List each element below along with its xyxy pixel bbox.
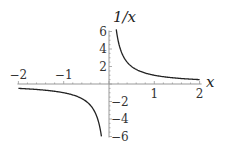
y-tick-label: −4 [111, 112, 129, 126]
curve-branch [116, 29, 199, 79]
y-tick-label: −2 [111, 95, 129, 109]
x-axis-title: x [206, 73, 215, 91]
x-tick-label: −1 [55, 68, 73, 82]
x-tick-label: −2 [10, 68, 28, 82]
y-tick-label: 4 [99, 42, 107, 56]
x-tick-label: 2 [196, 87, 204, 101]
chart-canvas: −2−112642−2−4−6 1/x x [0, 0, 232, 154]
curve-branch [18, 88, 101, 136]
y-axis-title: 1/x [113, 8, 137, 26]
x-tick-label: 1 [150, 87, 158, 101]
y-tick-label: 6 [99, 25, 107, 39]
y-tick-label: 2 [99, 60, 107, 74]
y-tick-label: −6 [111, 130, 129, 144]
